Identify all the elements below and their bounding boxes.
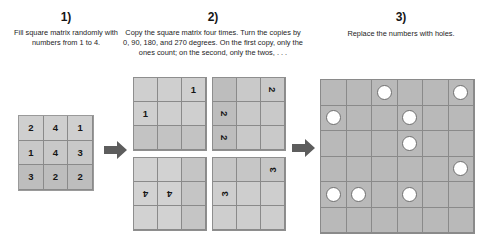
rotated-copy-cell xyxy=(134,78,158,102)
matrix-digit: 3 xyxy=(268,167,278,172)
holes-grid-cell xyxy=(372,131,398,157)
holes-grid-cell xyxy=(347,106,373,132)
holes-grid-cell xyxy=(321,131,347,157)
source-matrix-cell: 1 xyxy=(19,141,44,166)
matrix-digit: 4 xyxy=(53,123,58,133)
rotated-copy-cell xyxy=(158,206,182,230)
holes-grid-cell xyxy=(449,208,475,234)
holes-grid-cell xyxy=(423,80,449,106)
holes-grid-cell xyxy=(372,80,398,106)
holes-grid-cell xyxy=(372,182,398,208)
rotated-copy-cell xyxy=(237,102,261,126)
step-1-number: 1) xyxy=(8,10,124,24)
holes-grid-cell xyxy=(423,208,449,234)
matrix-digit: 1 xyxy=(78,123,83,133)
source-matrix-cell: 2 xyxy=(68,165,93,190)
holes-grid-cell xyxy=(398,106,424,132)
rotated-copy-cell xyxy=(237,158,261,182)
rotated-copy-cell: 2 xyxy=(213,126,237,150)
rotated-copy-270-grid: 33 xyxy=(212,157,286,231)
holes-grid-cell xyxy=(321,182,347,208)
rotated-copy-cell xyxy=(182,102,206,126)
source-matrix-grid: 241143322 xyxy=(18,115,94,191)
rotated-copy-cell xyxy=(182,126,206,150)
holes-grid-cell xyxy=(423,182,449,208)
rotated-copy-cell xyxy=(182,182,206,206)
matrix-digit: 1 xyxy=(143,109,148,119)
holes-grid-cell xyxy=(347,131,373,157)
rotated-copy-cell xyxy=(261,182,285,206)
rotated-copy-cell xyxy=(261,206,285,230)
step-3-caption: Replace the numbers with holes. xyxy=(322,29,480,39)
rotated-copy-cell xyxy=(158,126,182,150)
rotated-copy-cell: 2 xyxy=(213,102,237,126)
hole-circle-icon xyxy=(402,110,417,125)
matrix-digit: 3 xyxy=(78,148,83,158)
rotated-copy-cell xyxy=(237,126,261,150)
holes-grid-cell xyxy=(398,182,424,208)
hole-circle-icon xyxy=(453,161,468,176)
matrix-digit: 1 xyxy=(28,148,33,158)
rotated-copy-0-grid: 11 xyxy=(133,77,207,151)
rotated-copy-cell xyxy=(213,206,237,230)
matrix-digit: 1 xyxy=(191,85,196,95)
rotated-copy-cell xyxy=(182,158,206,182)
source-matrix-cell: 1 xyxy=(68,116,93,141)
rotated-copy-cell xyxy=(134,126,158,150)
holes-grid-cell xyxy=(321,157,347,183)
matrix-digit: 2 xyxy=(220,135,230,140)
source-matrix-cell: 4 xyxy=(44,116,69,141)
rotated-copy-cell xyxy=(237,206,261,230)
holes-grid-cell xyxy=(423,106,449,132)
holes-grid-cell xyxy=(372,157,398,183)
hole-circle-icon xyxy=(377,85,392,100)
matrix-digit: 4 xyxy=(143,189,148,199)
hole-circle-icon xyxy=(402,136,417,151)
rotated-copy-cell xyxy=(237,78,261,102)
hole-circle-icon xyxy=(351,187,366,202)
rotated-copy-cell xyxy=(261,102,285,126)
holes-grid-cell xyxy=(423,131,449,157)
step-1-caption: Fill square matrix randomly with numbers… xyxy=(6,28,126,48)
step-2-caption: Copy the square matrix four times. Turn … xyxy=(123,28,303,59)
matrix-digit: 4 xyxy=(53,148,58,158)
rotated-copy-cell: 1 xyxy=(134,102,158,126)
holes-grid xyxy=(320,79,475,234)
holes-grid-cell xyxy=(449,106,475,132)
source-matrix-cell: 3 xyxy=(19,165,44,190)
source-matrix-cell: 4 xyxy=(44,141,69,166)
holes-grid-cell xyxy=(449,157,475,183)
rotated-copy-cell: 3 xyxy=(261,158,285,182)
rotated-copy-cell xyxy=(261,126,285,150)
source-matrix-cell: 2 xyxy=(19,116,44,141)
holes-grid-cell xyxy=(449,80,475,106)
rotated-copy-cell: 3 xyxy=(213,182,237,206)
rotated-copy-cell xyxy=(213,78,237,102)
holes-grid-cell xyxy=(398,80,424,106)
holes-grid-cell xyxy=(372,208,398,234)
rotated-copy-cell xyxy=(158,78,182,102)
matrix-digit: 2 xyxy=(53,172,58,182)
rotated-copy-cell xyxy=(158,102,182,126)
step-2-number: 2) xyxy=(128,10,298,24)
holes-grid-cell xyxy=(449,131,475,157)
matrix-digit: 2 xyxy=(268,87,278,92)
rotated-copy-180-grid: 44 xyxy=(133,157,207,231)
hole-circle-icon xyxy=(402,187,417,202)
matrix-digit: 3 xyxy=(220,191,230,196)
holes-grid-cell xyxy=(347,80,373,106)
rotated-copy-cell xyxy=(213,158,237,182)
matrix-digit: 3 xyxy=(28,172,33,182)
holes-grid-cell xyxy=(423,157,449,183)
holes-grid-cell xyxy=(321,106,347,132)
rotated-copy-cell xyxy=(182,206,206,230)
source-matrix-cell: 2 xyxy=(44,165,69,190)
holes-grid-cell xyxy=(321,208,347,234)
rotated-copy-cell: 4 xyxy=(158,182,182,206)
holes-grid-cell xyxy=(347,208,373,234)
matrix-digit: 2 xyxy=(28,123,33,133)
holes-grid-cell xyxy=(347,157,373,183)
holes-grid-cell xyxy=(398,131,424,157)
holes-grid-cell xyxy=(347,182,373,208)
matrix-digit: 4 xyxy=(167,189,172,199)
